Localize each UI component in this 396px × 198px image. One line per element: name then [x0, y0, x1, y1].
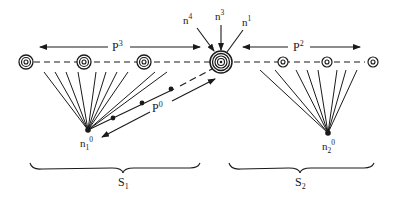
n1-label: n1 [242, 14, 252, 28]
target-left-1 [19, 55, 33, 69]
target-right-3 [368, 57, 378, 67]
diagram-canvas: P3 P2 n4 n3 n1 P0 n10 [0, 0, 396, 198]
p2-label: P2 [293, 39, 304, 54]
source-node-n1-0 [85, 127, 91, 133]
target-left-2 [77, 55, 91, 69]
target-left-3 [137, 55, 151, 69]
p0-label: P0 [152, 100, 163, 115]
s1-label: S1 [118, 175, 129, 191]
s2-label: S2 [295, 175, 306, 191]
n3-label: n3 [215, 8, 225, 22]
brace-s2 [229, 163, 374, 173]
n-arrows [197, 25, 243, 52]
target-center [210, 51, 232, 73]
path-to-center [88, 69, 212, 130]
n4-label: n4 [183, 12, 193, 26]
source-node-n2-0 [325, 130, 331, 136]
n1-0-label: n10 [80, 135, 93, 152]
fan-lines-s2 [260, 70, 357, 133]
n2-0-label: n20 [322, 138, 335, 155]
brace-s1 [30, 163, 200, 173]
target-right-2 [322, 57, 332, 67]
p3-label: P3 [112, 39, 123, 54]
target-right-1 [278, 57, 288, 67]
